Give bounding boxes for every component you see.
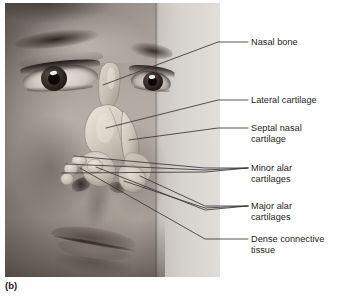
- jaw-shading: [5, 218, 165, 277]
- label-minor-alar-cartilages: Minor alar cartilages: [251, 163, 292, 185]
- label-nasal-bone: Nasal bone: [251, 37, 298, 48]
- figure-caption: (b): [5, 280, 17, 291]
- label-major-alar-cartilages: Major alar cartilages: [251, 201, 292, 223]
- face-photograph: [5, 3, 220, 277]
- label-lateral-cartilage: Lateral cartilage: [251, 95, 317, 106]
- label-dense-connective-tissue: Dense connective tissue: [251, 234, 324, 256]
- label-septal-nasal-cartilage: Septal nasal cartilage: [251, 123, 302, 145]
- figure-panel: Nasal bone Lateral cartilage Septal nasa…: [0, 0, 348, 297]
